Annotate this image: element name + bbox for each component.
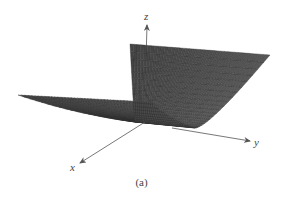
y-axis-label: y <box>253 136 259 148</box>
x-axis-label: x <box>69 161 75 173</box>
x-axis <box>80 122 145 163</box>
parabolic-cylinder-surface <box>18 44 270 128</box>
figure-caption: (a) <box>0 176 283 188</box>
z-axis-label: z <box>143 10 149 22</box>
y-axis <box>172 128 250 141</box>
